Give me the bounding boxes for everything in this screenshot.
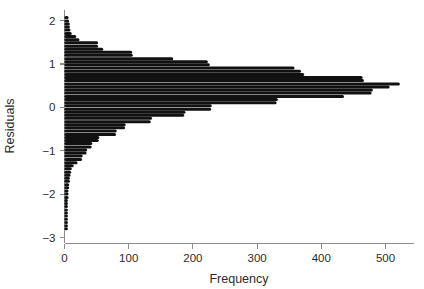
bar-series: [66, 17, 398, 228]
y-tick-label: −1: [42, 145, 55, 157]
x-axis-title: Frequency: [209, 272, 269, 286]
x-tick-label: 400: [312, 252, 331, 264]
residuals-frequency-chart: 210−1−2−3 0100200300400500 Frequency Res…: [0, 0, 424, 289]
y-axis-title: Residuals: [3, 99, 17, 154]
x-tick-label: 100: [119, 252, 138, 264]
x-tick-label: 0: [61, 252, 67, 264]
chart-figure: 210−1−2−3 0100200300400500 Frequency Res…: [0, 0, 424, 289]
x-axis-ticks: 0100200300400500: [61, 244, 395, 265]
y-tick-label: −3: [42, 232, 55, 244]
y-tick-label: 0: [49, 101, 55, 113]
x-tick-label: 500: [376, 252, 395, 264]
y-tick-label: 1: [49, 58, 55, 70]
y-tick-label: 2: [49, 15, 55, 27]
x-tick-label: 300: [248, 252, 267, 264]
x-tick-label: 200: [183, 252, 202, 264]
y-axis-ticks: 210−1−2−3: [42, 15, 64, 244]
y-tick-label: −2: [42, 188, 55, 200]
